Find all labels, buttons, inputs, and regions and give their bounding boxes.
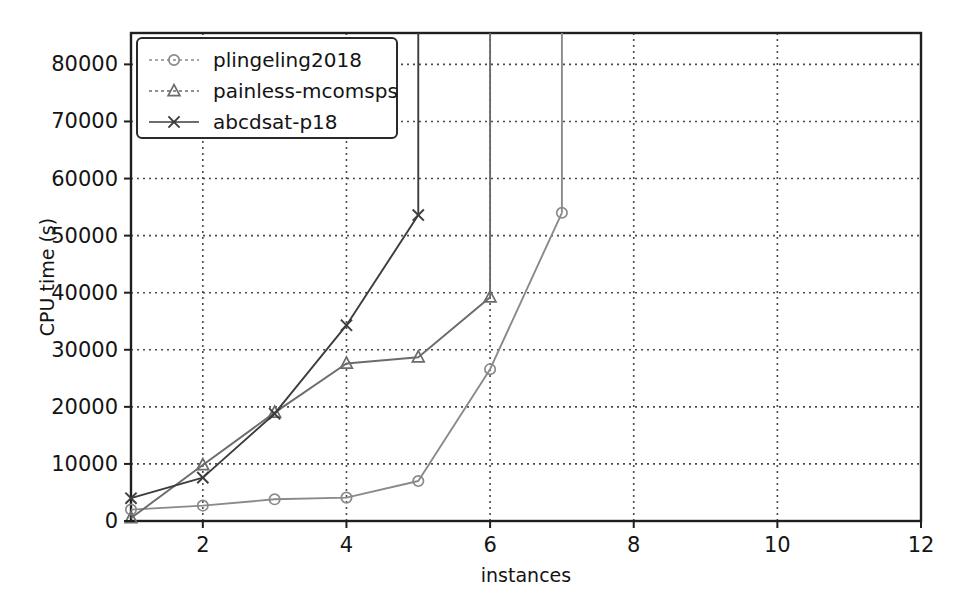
y-axis-title: CPU time (s) — [36, 218, 58, 336]
y-tick-label-50000: 50000 — [51, 224, 118, 248]
y-tick-label-80000: 80000 — [51, 52, 118, 76]
x-tick-label-6: 6 — [483, 533, 496, 557]
x-tick-label-8: 8 — [627, 533, 640, 557]
y-tick-label-40000: 40000 — [51, 281, 118, 305]
chart-canvas: 0100002000030000400005000060000700008000… — [0, 0, 968, 601]
legend-label-2: abcdsat-p18 — [213, 110, 338, 134]
y-tick-label-20000: 20000 — [51, 395, 118, 419]
x-tick-label-2: 2 — [196, 533, 209, 557]
cpu-time-vs-instances-chart: 0100002000030000400005000060000700008000… — [0, 0, 968, 601]
x-tick-label-10: 10 — [764, 533, 791, 557]
y-tick-label-70000: 70000 — [51, 109, 118, 133]
y-tick-label-10000: 10000 — [51, 452, 118, 476]
x-axis-title: instances — [481, 564, 571, 586]
legend-label-0: plingeling2018 — [213, 48, 362, 72]
y-tick-label-60000: 60000 — [51, 167, 118, 191]
x-tick-label-12: 12 — [908, 533, 935, 557]
x-tick-label-4: 4 — [340, 533, 353, 557]
y-tick-label-30000: 30000 — [51, 338, 118, 362]
y-tick-label-0: 0 — [105, 509, 118, 533]
legend-label-1: painless-mcomsps — [213, 79, 398, 103]
